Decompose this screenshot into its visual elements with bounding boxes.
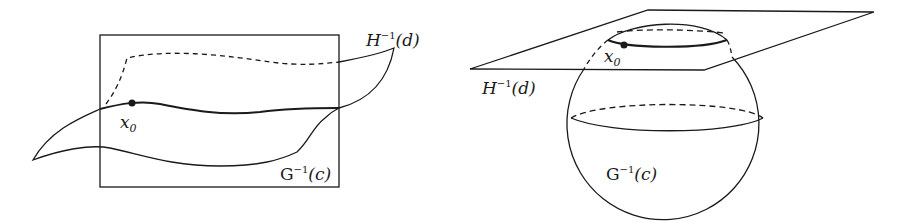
sphere-outline-lower [567,57,759,220]
left-figure [33,35,394,187]
plane-h [470,10,874,70]
point-x0-right [621,42,628,49]
label-x0-right: x0 [604,46,621,69]
equator-back [571,105,763,119]
label-g-right: G−1(c) [606,164,657,184]
intersection-curve [100,102,339,113]
label-x0-left: x0 [120,112,137,135]
h-surface-hidden-edge [106,53,339,104]
h-surface-edge [339,48,394,108]
equator-front [571,118,763,131]
intersection-back [617,30,724,33]
sphere-outline-hidden-right [727,40,732,57]
label-g-left: G−1(c) [280,164,331,184]
right-figure [470,10,874,220]
point-x0 [129,100,136,107]
diagram-canvas: x0 H−1(d) G−1(c) x0 H−1(d) G−1(c) [0,0,905,223]
g-surface-edge [33,108,339,166]
label-h-left: H−1(d) [365,30,420,50]
label-h-right: H−1(d) [481,78,536,98]
